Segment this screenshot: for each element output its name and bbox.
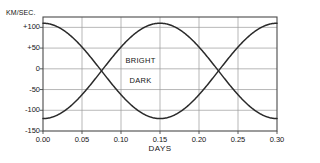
annotation-bright: BRIGHT xyxy=(123,55,157,64)
annotation-dark: DARK xyxy=(127,75,153,84)
x-tick-label: 0.05 xyxy=(75,135,90,144)
x-tick-label: 0.10 xyxy=(114,135,129,144)
x-tick-label: 0.30 xyxy=(270,135,285,144)
x-tick-label: 0.20 xyxy=(192,135,207,144)
x-tick-label: 0.15 xyxy=(153,135,168,144)
x-tick-label: 0.25 xyxy=(231,135,246,144)
x-axis-title: DAYS xyxy=(149,144,172,153)
x-tick-label: 0.00 xyxy=(36,135,51,144)
